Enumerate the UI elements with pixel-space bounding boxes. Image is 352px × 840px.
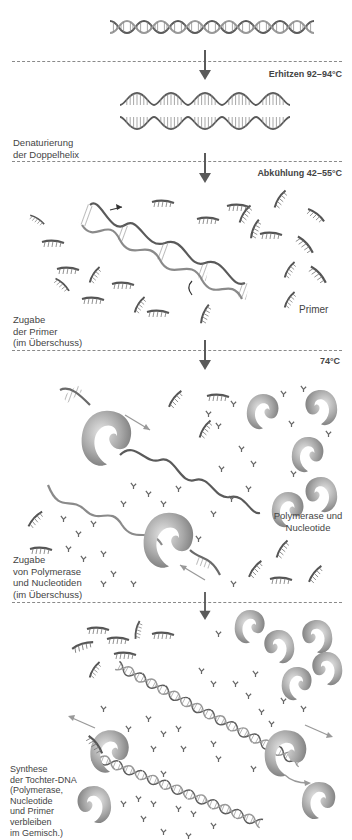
callout-polymerase-nucleotides: Polymerase und Nucleotide [268, 510, 348, 533]
caption-extension: Zugabe von Polymerase und Nucleotiden (i… [13, 554, 82, 600]
dna-single-strand-top [120, 92, 300, 108]
dna-single-strand-bottom [120, 116, 300, 132]
dna-double-helix [110, 15, 316, 39]
step-divider [12, 350, 342, 351]
step-divider [12, 161, 342, 162]
caption-annealing: Zugabe der Primer (im Überschuss) [13, 314, 82, 349]
step-divider [12, 61, 342, 62]
condition-heating: Erhitzen 92–94°C [269, 69, 342, 81]
callout-primer: Primer [299, 304, 328, 316]
arrow-down-icon [199, 50, 211, 80]
condition-cooling: Abkühlung 42–55°C [257, 168, 342, 180]
caption-denaturation: Denaturierung der Doppelhelix [13, 137, 79, 160]
arrow-down-icon [199, 153, 211, 183]
condition-extension: 74°C [320, 356, 340, 368]
caption-synthesis: Synthese der Tochter-DNA (Polymerase, Nu… [10, 764, 77, 838]
arrow-down-icon [199, 340, 211, 370]
